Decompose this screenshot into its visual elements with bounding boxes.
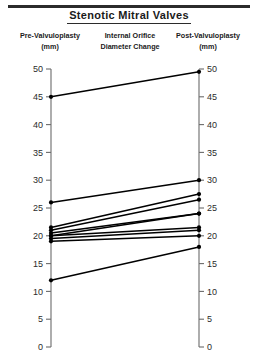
point-post-patient-10 (197, 245, 201, 249)
point-post-patient-1 (197, 70, 201, 74)
tick-label-left-20: 20 (33, 231, 43, 241)
tick-label-left-35: 35 (33, 148, 43, 158)
slope-line-patient-6 (51, 214, 199, 236)
slope-line-patient-4 (51, 200, 199, 231)
tick-label-left-15: 15 (33, 259, 43, 269)
point-post-patient-4 (197, 198, 201, 202)
tick-label-left-50: 50 (33, 64, 43, 74)
slope-lines (51, 72, 199, 281)
point-post-patient-8 (197, 228, 201, 232)
tick-label-right-45: 45 (207, 92, 217, 102)
tick-label-right-15: 15 (207, 259, 217, 269)
tick-label-left-45: 45 (33, 92, 43, 102)
tick-label-left-10: 10 (33, 287, 43, 297)
right-axis: 05101520253035404550 (199, 64, 217, 352)
tick-label-left-25: 25 (33, 203, 43, 213)
tick-label-right-0: 0 (207, 342, 212, 352)
tick-label-right-30: 30 (207, 175, 217, 185)
tick-label-right-50: 50 (207, 64, 217, 74)
tick-label-right-10: 10 (207, 287, 217, 297)
tick-label-right-25: 25 (207, 203, 217, 213)
left-axis: 05101520253035404550 (33, 64, 51, 352)
tick-label-left-40: 40 (33, 120, 43, 130)
point-pre-patient-9 (49, 239, 53, 243)
tick-label-right-20: 20 (207, 231, 217, 241)
point-post-patient-3 (197, 192, 201, 196)
tick-label-right-40: 40 (207, 120, 217, 130)
point-pre-patient-1 (49, 95, 53, 99)
tick-label-right-5: 5 (207, 314, 212, 324)
tick-label-left-5: 5 (38, 314, 43, 324)
tick-label-left-0: 0 (38, 342, 43, 352)
slope-line-patient-10 (51, 247, 199, 280)
data-point-markers (49, 70, 201, 283)
plot-area: 05101520253035404550 0510152025303540455… (0, 0, 258, 354)
tick-label-right-35: 35 (207, 148, 217, 158)
point-post-patient-2 (197, 178, 201, 182)
point-post-patient-9 (197, 234, 201, 238)
point-pre-patient-2 (49, 200, 53, 204)
slope-chart-svg: 05101520253035404550 0510152025303540455… (0, 0, 258, 354)
point-pre-patient-10 (49, 278, 53, 282)
tick-label-left-30: 30 (33, 175, 43, 185)
point-post-patient-6 (197, 211, 201, 215)
figure-root: Stenotic Mitral Valves Pre-Valvuloplasty… (0, 0, 258, 354)
slope-line-patient-1 (51, 72, 199, 97)
